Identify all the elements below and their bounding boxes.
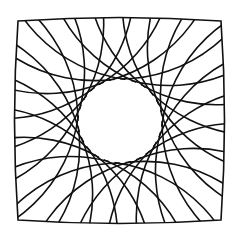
geometric-pattern-figure [0, 0, 237, 236]
arc-clockwise [0, 116, 78, 236]
central-empty-circle [79, 80, 161, 162]
tangent-arc-pattern [0, 0, 237, 236]
arc-clockwise [0, 126, 80, 236]
arc-counterclockwise [0, 163, 120, 236]
arc-clockwise [147, 0, 211, 105]
arc-clockwise [0, 0, 125, 79]
